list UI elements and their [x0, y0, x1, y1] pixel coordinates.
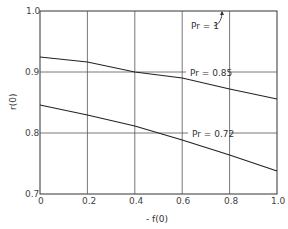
- x-tick-0-8: 0.8: [224, 196, 239, 206]
- curve-pr-072: [40, 105, 277, 171]
- label-pr-072: Pr = 0.72: [192, 129, 234, 139]
- pr1-arrowhead-icon: [220, 11, 224, 15]
- y-axis-label: r(0): [8, 94, 18, 110]
- x-tick-0: 0: [38, 196, 44, 206]
- x-axis-label: - f(0): [146, 214, 168, 224]
- horizontal-gridlines: [40, 72, 277, 133]
- x-tick-0-4: 0.4: [129, 196, 144, 206]
- y-tick-0-8: 0.8: [25, 128, 40, 138]
- x-tick-0-6: 0.6: [176, 196, 191, 206]
- label-pr-1: Pr = 1: [191, 21, 219, 31]
- label-pr-085: Pr = 0.85: [190, 68, 232, 78]
- curve-pr-085: [40, 57, 277, 99]
- y-tick-0-9: 0.9: [25, 67, 40, 77]
- chart-canvas: Pr = 1 Pr = 0.85 Pr = 0.72 1.0 0.9 0.8 0…: [0, 0, 288, 229]
- x-tick-1-0: 1.0: [271, 196, 286, 206]
- x-tick-0-2: 0.2: [82, 196, 96, 206]
- y-tick-1-0: 1.0: [26, 6, 41, 16]
- vertical-gridlines: [87, 11, 229, 194]
- plot-frame: [40, 11, 277, 194]
